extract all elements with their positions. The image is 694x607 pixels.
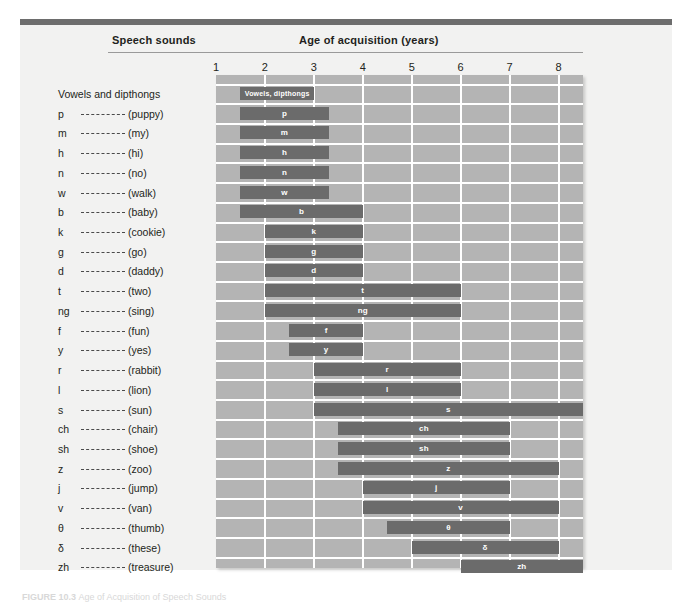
gridline-horizontal (216, 557, 583, 559)
example-word: (no) (128, 167, 147, 179)
phoneme-symbol: y (58, 344, 78, 356)
phoneme-symbol: sh (58, 443, 78, 455)
leader-dots (81, 193, 125, 194)
gridline-horizontal (216, 202, 583, 204)
row-label-v: v(van) (58, 502, 152, 514)
leader-dots (81, 548, 125, 549)
phoneme-symbol: δ (58, 542, 78, 554)
leader-dots (81, 429, 125, 430)
bar-k: k (265, 225, 363, 238)
bar-zh: zh (461, 560, 583, 573)
column-header-speech-sounds: Speech sounds (112, 34, 196, 46)
leader-dots (81, 133, 125, 134)
example-word: (sun) (128, 404, 152, 416)
column-header-age-of-acquisition: Age of acquisition (years) (299, 34, 439, 46)
row-label-m: m(my) (58, 127, 149, 139)
figure-caption-text: Age of Acquisition of Speech Sounds (79, 592, 227, 602)
bar-r: r (314, 363, 461, 376)
row-label-g: g(go) (58, 246, 147, 258)
gridline-horizontal (216, 537, 583, 539)
bar-w: w (240, 186, 328, 199)
bar-y: y (289, 343, 362, 356)
example-word: (these) (128, 542, 161, 554)
example-word: (shoe) (128, 443, 158, 455)
leader-dots (81, 153, 125, 154)
header-divider (108, 52, 583, 53)
x-tick-2: 2 (255, 61, 275, 73)
phoneme-symbol: p (58, 108, 78, 120)
gridline-horizontal (216, 281, 583, 283)
figure-caption-label: FIGURE 10.3 (22, 592, 76, 602)
gridline-horizontal (216, 162, 583, 164)
gridline-horizontal (216, 438, 583, 440)
example-word: (jump) (128, 482, 158, 494)
gridline-horizontal (216, 498, 583, 500)
example-word: (daddy) (128, 265, 164, 277)
example-word: (puppy) (128, 108, 164, 120)
gridline-horizontal (216, 261, 583, 263)
bar-j: j (363, 481, 510, 494)
gridline-horizontal (216, 123, 583, 125)
phoneme-symbol: ng (58, 305, 78, 317)
example-word: (two) (128, 285, 151, 297)
bar-s: s (314, 403, 583, 416)
bar-δ: δ (412, 541, 559, 554)
leader-dots (81, 370, 125, 371)
row-label-n: n(no) (58, 167, 147, 179)
gridline-horizontal (216, 399, 583, 401)
leader-dots (81, 469, 125, 470)
gridline-horizontal (216, 143, 583, 145)
phoneme-symbol: s (58, 404, 78, 416)
row-label-vowels-and-dipthongs: Vowels and dipthongs (58, 88, 160, 100)
leader-dots (81, 508, 125, 509)
row-label-z: z(zoo) (58, 463, 152, 475)
example-word: (cookie) (128, 226, 165, 238)
leader-dots (81, 528, 125, 529)
phoneme-symbol: v (58, 502, 78, 514)
example-word: (sing) (128, 305, 154, 317)
example-word: (my) (128, 127, 149, 139)
leader-dots (81, 173, 125, 174)
row-label-s: s(sun) (58, 404, 152, 416)
leader-dots (81, 410, 125, 411)
gridline-horizontal (216, 340, 583, 342)
bar-p: p (240, 107, 328, 120)
gridline-horizontal (216, 300, 583, 302)
phoneme-symbol: l (58, 384, 78, 396)
figure-caption: FIGURE 10.3 Age of Acquisition of Speech… (22, 592, 226, 602)
phoneme-symbol: zh (58, 561, 78, 573)
gridline-horizontal (216, 103, 583, 105)
x-tick-1: 1 (206, 61, 226, 73)
example-word: (yes) (128, 344, 151, 356)
bar-h: h (240, 146, 328, 159)
figure-top-rule (20, 19, 672, 25)
example-word: (thumb) (128, 522, 164, 534)
gridline-horizontal (216, 84, 583, 86)
bar-b: b (240, 205, 362, 218)
row-label-zh: zh(treasure) (58, 561, 174, 573)
example-word: (treasure) (128, 561, 174, 573)
leader-dots (81, 252, 125, 253)
leader-dots (81, 291, 125, 292)
leader-dots (81, 331, 125, 332)
bar-l: l (314, 383, 461, 396)
phoneme-symbol: b (58, 206, 78, 218)
figure-panel: Speech sounds Age of acquisition (years)… (20, 19, 672, 570)
gridline-horizontal (216, 458, 583, 460)
x-tick-8: 8 (549, 61, 569, 73)
row-label-j: j(jump) (58, 482, 158, 494)
row-label-sh: sh(shoe) (58, 443, 158, 455)
phoneme-symbol: ch (58, 423, 78, 435)
chart-plot-area: Vowels, dipthongspmhnwbkgdtngfyrlschshzj… (216, 75, 583, 568)
bar-n: n (240, 166, 328, 179)
example-word: (fun) (128, 325, 150, 337)
bar-v: v (363, 501, 559, 514)
phoneme-symbol: m (58, 127, 78, 139)
row-label-ch: ch(chair) (58, 423, 158, 435)
row-label-ng: ng(sing) (58, 305, 154, 317)
row-label-w: w(walk) (58, 187, 156, 199)
x-tick-5: 5 (402, 61, 422, 73)
gridline-horizontal (216, 419, 583, 421)
example-word: (lion) (128, 384, 151, 396)
leader-dots (81, 114, 125, 115)
